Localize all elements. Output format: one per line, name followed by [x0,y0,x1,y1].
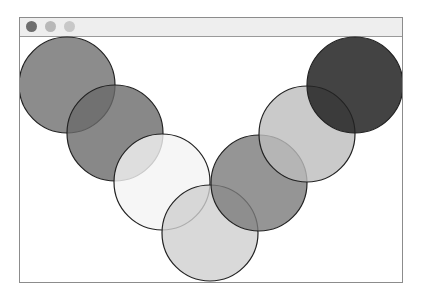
drawing-canvas [0,0,422,299]
circle-shape-7 [307,37,403,133]
